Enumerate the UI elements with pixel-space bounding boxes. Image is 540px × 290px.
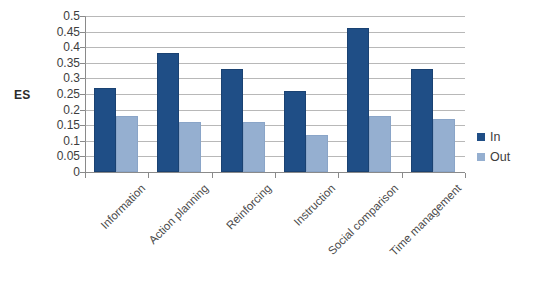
bar-group bbox=[85, 16, 148, 172]
bar-in[interactable] bbox=[411, 69, 433, 172]
y-tick-label: 0.35 bbox=[2, 56, 80, 70]
y-tick-mark bbox=[80, 78, 85, 79]
y-tick-label: 0.25 bbox=[2, 87, 80, 101]
x-tick-mark bbox=[338, 173, 339, 178]
y-tick-label: 0.3 bbox=[2, 71, 80, 85]
x-tick-mark bbox=[148, 173, 149, 178]
y-tick-mark bbox=[80, 141, 85, 142]
bar-group bbox=[148, 16, 211, 172]
y-tick-mark bbox=[80, 63, 85, 64]
x-tick-mark bbox=[402, 173, 403, 178]
bar-out[interactable] bbox=[306, 135, 328, 172]
y-tick-label: 0.2 bbox=[2, 103, 80, 117]
bar-out[interactable] bbox=[243, 122, 265, 172]
bar-chart: ES 0.50.450.40.350.30.250.20.150.10.050 … bbox=[0, 0, 540, 290]
legend-label: Out bbox=[490, 151, 510, 164]
y-tick-label: 0.5 bbox=[2, 9, 80, 23]
bar-in[interactable] bbox=[221, 69, 243, 172]
y-tick-mark bbox=[80, 94, 85, 95]
bar-group bbox=[212, 16, 275, 172]
y-tick-mark bbox=[80, 32, 85, 33]
y-tick-mark bbox=[80, 16, 85, 17]
legend-item[interactable]: In bbox=[477, 128, 510, 146]
y-tick-label: 0.05 bbox=[2, 149, 80, 163]
bar-group bbox=[402, 16, 465, 172]
bar-out[interactable] bbox=[116, 116, 138, 172]
bars-layer bbox=[85, 16, 465, 172]
y-tick-label: 0.45 bbox=[2, 25, 80, 39]
bar-in[interactable] bbox=[347, 28, 369, 172]
x-tick-mark bbox=[212, 173, 213, 178]
bar-out[interactable] bbox=[179, 122, 201, 172]
chart-legend: InOut bbox=[477, 128, 510, 168]
bar-in[interactable] bbox=[284, 91, 306, 172]
y-tick-label: 0.4 bbox=[2, 40, 80, 54]
bar-in[interactable] bbox=[94, 88, 116, 172]
y-tick-mark bbox=[80, 125, 85, 126]
bar-out[interactable] bbox=[369, 116, 391, 172]
bar-group bbox=[338, 16, 401, 172]
y-tick-label: 0.1 bbox=[2, 134, 80, 148]
legend-swatch-icon bbox=[477, 153, 485, 161]
bar-group bbox=[275, 16, 338, 172]
x-tick-mark bbox=[85, 173, 86, 178]
x-tick-mark bbox=[465, 173, 466, 178]
x-tick-mark bbox=[275, 173, 276, 178]
x-axis-tick-marks bbox=[85, 173, 465, 179]
legend-item[interactable]: Out bbox=[477, 148, 510, 166]
y-tick-mark bbox=[80, 156, 85, 157]
y-tick-mark bbox=[80, 110, 85, 111]
bar-out[interactable] bbox=[433, 119, 455, 172]
y-tick-mark bbox=[80, 47, 85, 48]
y-tick-mark bbox=[80, 172, 85, 173]
legend-label: In bbox=[490, 131, 500, 144]
y-tick-label: 0 bbox=[2, 165, 80, 179]
y-tick-label: 0.15 bbox=[2, 118, 80, 132]
legend-swatch-icon bbox=[477, 133, 485, 141]
bar-in[interactable] bbox=[157, 53, 179, 172]
y-axis-tick-labels: 0.50.450.40.350.30.250.20.150.10.050 bbox=[0, 0, 80, 290]
